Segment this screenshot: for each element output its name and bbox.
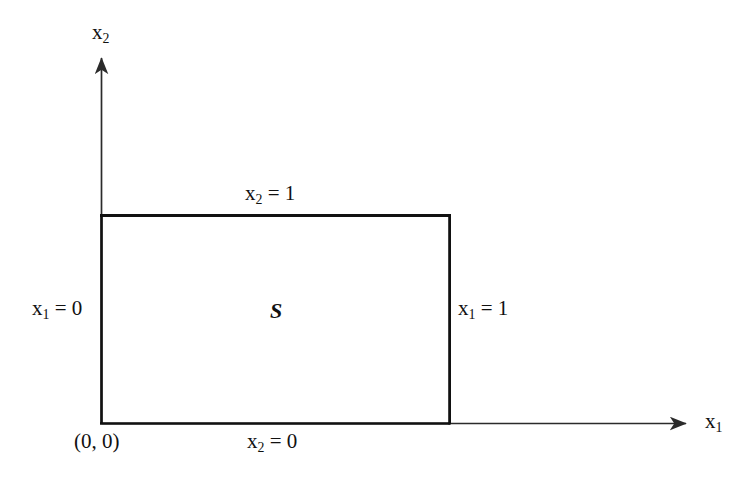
bottom-edge-value: 0 [287, 429, 298, 453]
x-axis-label-subscript: 1 [716, 420, 723, 435]
left-edge-variable: x [32, 296, 43, 320]
x-axis-label: x1 [705, 411, 722, 435]
region-label-s: S [270, 300, 282, 322]
y-axis-label: x2 [92, 22, 109, 46]
y-axis-label-base: x [92, 20, 103, 44]
right-edge-value: 1 [498, 296, 509, 320]
diagram-canvas [0, 0, 755, 479]
top-edge-value: 1 [285, 181, 296, 205]
top-edge-relation: = [262, 181, 284, 205]
unit-square-diagram: x2 x1 x2 = 1 x1 = 0 x1 = 1 x2 = 0 (0, 0)… [0, 0, 755, 479]
left-edge-relation: = [49, 296, 71, 320]
left-edge-equation-label: x1 = 0 [32, 298, 82, 322]
y-axis-label-subscript: 2 [103, 31, 110, 46]
top-edge-variable: x [245, 181, 256, 205]
bottom-edge-equation-label: x2 = 0 [247, 431, 297, 455]
left-edge-value: 0 [72, 296, 83, 320]
right-edge-equation-label: x1 = 1 [458, 298, 508, 322]
top-edge-equation-label: x2 = 1 [245, 183, 295, 207]
bottom-edge-relation: = [264, 429, 286, 453]
right-edge-relation: = [475, 296, 497, 320]
x-axis-label-base: x [705, 409, 716, 433]
bottom-edge-variable: x [247, 429, 258, 453]
origin-label: (0, 0) [74, 431, 120, 452]
right-edge-variable: x [458, 296, 469, 320]
